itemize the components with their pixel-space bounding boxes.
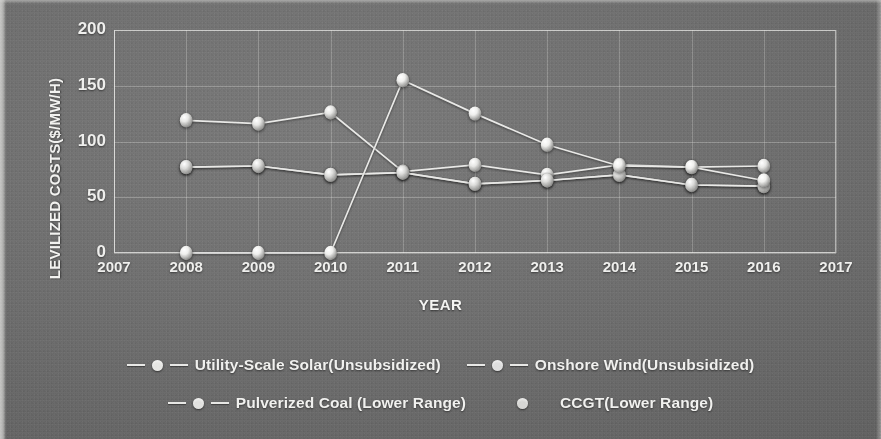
- legend-line-icon: [127, 364, 145, 366]
- plot-area: [114, 30, 836, 253]
- y-axis-tick-label: 200: [44, 19, 106, 39]
- x-axis-tick-label: 2007: [79, 258, 149, 275]
- x-axis-tick-label: 2012: [440, 258, 510, 275]
- legend-item[interactable]: Pulverized Coal (Lower Range): [168, 394, 466, 412]
- data-point-marker: [252, 117, 265, 131]
- legend-row: Utility-Scale Solar(Unsubsidized)Onshore…: [0, 346, 881, 384]
- legend-marker-icon: [193, 398, 204, 409]
- x-axis-tick-label: 2011: [368, 258, 438, 275]
- data-point-marker: [469, 177, 482, 191]
- legend-line-icon: [467, 364, 485, 366]
- legend-marker-icon: [152, 360, 163, 371]
- data-point-marker: [469, 106, 482, 120]
- legend-label: Pulverized Coal (Lower Range): [236, 394, 466, 412]
- data-point-marker: [757, 159, 770, 173]
- legend-line-icon: [211, 402, 229, 404]
- y-axis-tick-label: 150: [44, 75, 106, 95]
- data-point-marker: [757, 173, 770, 187]
- legend-label: Onshore Wind(Unsubsidized): [535, 356, 754, 374]
- legend-label: CCGT(Lower Range): [560, 394, 713, 412]
- x-axis-tick-label: 2014: [584, 258, 654, 275]
- x-axis-tick-label: 2009: [223, 258, 293, 275]
- legend-row: Pulverized Coal (Lower Range)CCGT(Lower …: [0, 384, 881, 422]
- legend-line-icon: [170, 364, 188, 366]
- x-axis-tick-label: 2013: [512, 258, 582, 275]
- data-point-marker: [324, 168, 337, 182]
- image-border-top: [0, 0, 881, 4]
- gridline-vertical: [836, 30, 837, 253]
- data-point-marker: [396, 166, 409, 180]
- data-point-marker: [541, 138, 554, 152]
- x-axis-tick-label: 2016: [729, 258, 799, 275]
- data-point-marker: [324, 105, 337, 119]
- legend-line-icon: [510, 364, 528, 366]
- data-point-marker: [685, 178, 698, 192]
- legend-item[interactable]: CCGT(Lower Range): [492, 394, 713, 412]
- data-point-marker: [613, 159, 626, 173]
- legend-marker-icon: [492, 360, 503, 371]
- data-point-marker: [252, 159, 265, 173]
- x-axis-tick-label: 2008: [151, 258, 221, 275]
- legend-item[interactable]: Onshore Wind(Unsubsidized): [467, 356, 754, 374]
- series-canvas: [114, 30, 836, 253]
- data-point-marker: [469, 158, 482, 172]
- x-axis-tick-label: 2015: [657, 258, 727, 275]
- data-point-marker: [685, 160, 698, 174]
- x-axis-tick-label: 2010: [296, 258, 366, 275]
- data-point-marker: [180, 160, 193, 174]
- data-point-marker: [396, 73, 409, 87]
- data-point-marker: [180, 113, 193, 127]
- legend-item[interactable]: Utility-Scale Solar(Unsubsidized): [127, 356, 441, 374]
- x-axis-tick-label: 2017: [801, 258, 871, 275]
- y-axis-tick-label: 50: [44, 186, 106, 206]
- data-point-marker: [541, 173, 554, 187]
- legend-marker-icon: [517, 398, 528, 409]
- legend-label: Utility-Scale Solar(Unsubsidized): [195, 356, 441, 374]
- legend-line-icon: [168, 402, 186, 404]
- chart-figure: LEVILIZED COSTS($/MW/H) 050100150200 YEA…: [0, 0, 881, 439]
- chart-legend: Utility-Scale Solar(Unsubsidized)Onshore…: [0, 346, 881, 422]
- y-axis-tick-label: 100: [44, 131, 106, 151]
- x-axis-title: YEAR: [0, 296, 881, 313]
